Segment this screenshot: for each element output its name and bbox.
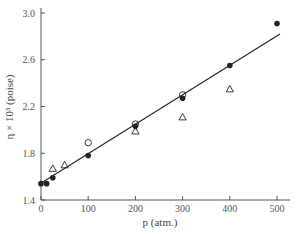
x-axis-ticks: 0100200300400500 [39, 196, 285, 214]
x-tick-label: 100 [81, 203, 96, 214]
filled-circle-marker [50, 175, 56, 181]
filled-circle-marker [85, 153, 91, 159]
y-tick-label: 3.0 [23, 8, 36, 19]
y-tick-label: 1.8 [23, 148, 36, 159]
filled-circle-marker [227, 63, 233, 69]
y-axis-ticks: 1.41.82.22.63.0 [23, 8, 46, 206]
x-tick-label: 500 [270, 203, 285, 214]
axes [41, 8, 290, 200]
open-triangle-marker [226, 85, 233, 91]
viscosity-pressure-chart: 0100200300400500 1.41.82.22.63.0 p (atm.… [0, 0, 298, 234]
y-tick-label: 2.2 [23, 101, 36, 112]
x-tick-label: 400 [222, 203, 237, 214]
open-circle-marker [85, 140, 91, 146]
open-triangle-marker [179, 113, 186, 119]
y-tick-label: 2.6 [23, 54, 36, 65]
x-axis-label: p (atm.) [143, 216, 178, 229]
fit-line [42, 34, 280, 182]
filled-circle-marker [38, 181, 44, 187]
filled-circle-marker [274, 21, 280, 27]
x-tick-label: 200 [128, 203, 143, 214]
open-triangle-marker [49, 165, 56, 171]
filled-circle-marker [44, 181, 50, 187]
x-tick-label: 0 [39, 203, 44, 214]
x-tick-label: 300 [175, 203, 190, 214]
data-points [38, 21, 280, 187]
y-axis-label: η × 10³ (poise) [3, 74, 16, 139]
y-tick-label: 1.4 [23, 195, 36, 206]
